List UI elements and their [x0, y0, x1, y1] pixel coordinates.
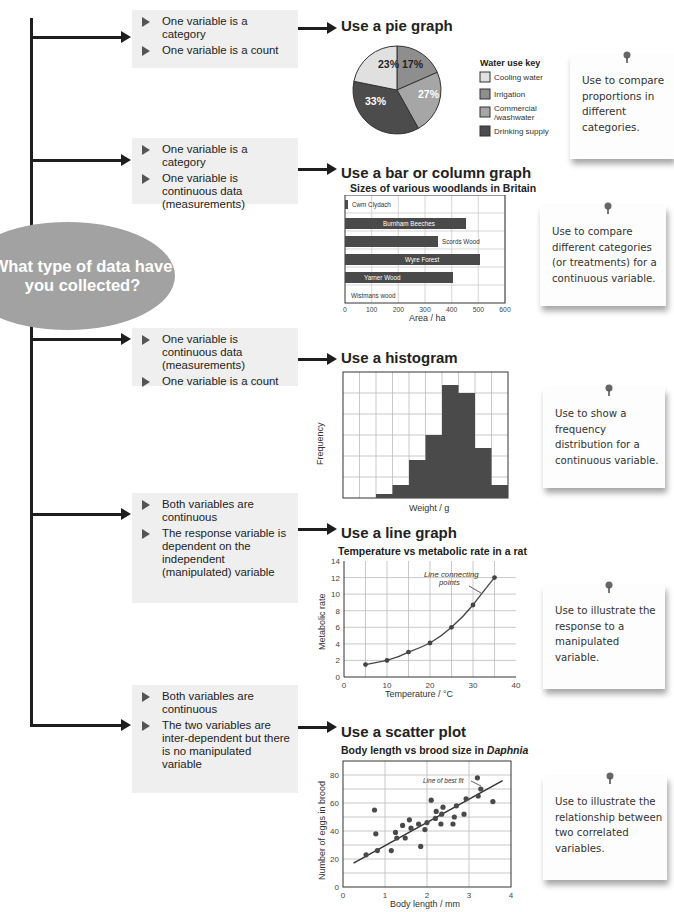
bullet-icon — [142, 17, 150, 27]
svg-text:40: 40 — [330, 827, 339, 836]
svg-text:100: 100 — [366, 306, 378, 313]
svg-text:0: 0 — [342, 681, 347, 690]
svg-text:33%: 33% — [365, 95, 387, 107]
histogram-chart: Frequency — [310, 370, 515, 505]
criteria-box-scatter: Both variables are continuous The two va… — [132, 685, 298, 793]
histogram-xlabel: Weight / g — [409, 503, 449, 513]
bullet-icon — [142, 145, 150, 155]
svg-text:Metabolic rate: Metabolic rate — [317, 593, 327, 650]
branch-arrow-bar — [30, 159, 125, 162]
heading-histogram: Use a histogram — [341, 349, 458, 366]
bar-chart: Cwm Clydach Burnham Beeches Scords Wood … — [335, 195, 535, 315]
flow-trunk-line — [30, 18, 33, 726]
bullet-icon — [142, 692, 150, 702]
pushpin-icon — [603, 202, 613, 214]
svg-text:14: 14 — [331, 558, 340, 566]
heading-pie: Use a pie graph — [341, 17, 453, 34]
svg-text:40: 40 — [512, 681, 521, 690]
svg-text:60: 60 — [330, 799, 339, 808]
svg-text:Scords Wood: Scords Wood — [442, 238, 480, 245]
svg-text:0: 0 — [343, 306, 347, 313]
svg-text:2: 2 — [336, 656, 341, 665]
arrow-to-histogram — [298, 358, 330, 361]
svg-text:Cwm Clydach: Cwm Clydach — [352, 201, 391, 209]
svg-text:Burnham Beeches: Burnham Beeches — [383, 220, 435, 227]
svg-text:Number of eggs in brood: Number of eggs in brood — [317, 781, 327, 880]
branch-arrow-scatter — [30, 724, 125, 727]
criteria-box-histogram: One variable is continuous data (measure… — [132, 328, 298, 386]
svg-text:20: 20 — [330, 855, 339, 864]
sticky-note-bar: Use to compare different categories (or … — [540, 206, 666, 306]
arrow-to-line — [298, 528, 330, 531]
svg-text:Cooling water: Cooling water — [494, 73, 543, 82]
line-chart: Line connecting points 14121086420 01020… — [312, 558, 522, 693]
line-chart-title: Temperature vs metabolic rate in a rat — [338, 545, 527, 557]
sticky-note-histogram: Use to show a frequency distribution for… — [543, 388, 665, 488]
bullet-icon — [142, 377, 150, 387]
question-ellipse: What type of data have you collected? — [0, 222, 175, 330]
svg-text:points: points — [438, 578, 460, 587]
sticky-note-line: Use to illustrate the response to a mani… — [543, 585, 665, 689]
pushpin-icon — [622, 51, 632, 63]
sticky-note-scatter: Use to illustrate the relationship betwe… — [543, 776, 667, 880]
svg-text:Irrigation: Irrigation — [494, 90, 525, 99]
svg-text:400: 400 — [446, 306, 458, 313]
svg-text:80: 80 — [330, 771, 339, 780]
svg-text:12: 12 — [331, 574, 340, 583]
pushpin-icon — [604, 581, 614, 593]
svg-text:Line of best fit: Line of best fit — [423, 777, 465, 784]
scatter-chart-xlabel: Body length / mm — [390, 899, 460, 909]
bar-chart-xlabel: Area / ha — [409, 313, 446, 323]
bullet-icon — [142, 721, 150, 731]
svg-text:Wyre Forest: Wyre Forest — [405, 256, 439, 264]
svg-text:3: 3 — [467, 891, 472, 900]
svg-text:Drinking supply: Drinking supply — [494, 127, 549, 136]
arrow-to-pie — [298, 27, 330, 30]
heading-line: Use a line graph — [341, 524, 457, 541]
svg-text:8: 8 — [336, 607, 341, 616]
bullet-icon — [142, 46, 150, 56]
sticky-note-pie: Use to compare proportions in different … — [570, 55, 674, 159]
svg-text:0: 0 — [335, 883, 340, 892]
svg-text:17%: 17% — [402, 58, 424, 70]
branch-arrow-histogram — [30, 338, 125, 341]
heading-scatter: Use a scatter plot — [341, 723, 466, 740]
bullet-icon — [142, 500, 150, 510]
svg-text:1: 1 — [383, 891, 388, 900]
svg-text:6: 6 — [336, 623, 341, 632]
svg-text:Frequency: Frequency — [315, 422, 325, 465]
criteria-box-bar: One variable is a category One variable … — [132, 138, 298, 204]
pie-chart: 23% 17% 27% 33% Water use key Cooling wa… — [340, 40, 575, 150]
svg-text:Water use key: Water use key — [480, 58, 540, 68]
pushpin-icon — [604, 384, 614, 396]
svg-text:27%: 27% — [418, 88, 440, 100]
svg-text:Wistmans wood: Wistmans wood — [351, 292, 396, 299]
criteria-box-pie: One variable is a category One variable … — [132, 10, 298, 68]
criteria-box-line: Both variables are continuous The respon… — [132, 493, 298, 603]
svg-text:30: 30 — [469, 681, 478, 690]
svg-text:4: 4 — [336, 640, 341, 649]
arrow-to-bar — [298, 168, 330, 171]
svg-text:4: 4 — [509, 891, 514, 900]
svg-text:Yarner Wood: Yarner Wood — [364, 274, 401, 281]
svg-text:0: 0 — [336, 673, 341, 682]
svg-text:500: 500 — [473, 306, 485, 313]
scatter-chart: Line of best fit 020406080 01234 Number … — [312, 758, 522, 903]
line-chart-xlabel: Temperature / °C — [385, 689, 453, 699]
branch-arrow-pie — [30, 36, 125, 39]
question-text: What type of data have you collected? — [0, 257, 175, 295]
svg-text:300: 300 — [419, 306, 431, 313]
arrow-to-scatter — [298, 726, 330, 729]
bar-chart-title: Sizes of various woodlands in Britain — [350, 182, 536, 194]
svg-text:200: 200 — [393, 306, 405, 313]
svg-text:0: 0 — [341, 891, 346, 900]
branch-arrow-line — [30, 513, 125, 516]
svg-text:Commercial: Commercial — [494, 104, 537, 113]
svg-text:10: 10 — [331, 590, 340, 599]
scatter-chart-title: Body length vs brood size in Daphnia — [341, 744, 528, 756]
bullet-icon — [142, 174, 150, 184]
bullet-icon — [142, 529, 150, 539]
svg-text:23%: 23% — [378, 58, 400, 70]
heading-bar: Use a bar or column graph — [341, 164, 531, 181]
pushpin-icon — [605, 772, 615, 784]
